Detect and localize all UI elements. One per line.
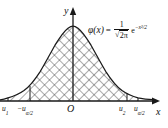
- tick-label-neg-u-alpha-half: −uα/2: [17, 105, 33, 115]
- tick-label-neg-u-alpha-half-subscript: α/2: [26, 110, 33, 116]
- density-formula: φ(x) = 1 √2π e−x²/2: [88, 21, 147, 41]
- x-axis-arrow-icon: [152, 98, 160, 105]
- origin-label: O: [67, 104, 74, 114]
- tick-label-u2: u2: [119, 105, 125, 115]
- formula-numerator: 1: [117, 21, 127, 29]
- tick-label-u-alpha-half-subscript: α/2: [138, 110, 145, 116]
- formula-paren-close: ): [101, 26, 104, 36]
- formula-sqrt-icon: √: [115, 30, 119, 39]
- formula-exponent: −x²/2: [135, 25, 147, 31]
- formula-radicand: 2π: [119, 30, 128, 40]
- formula-fraction: 1 √2π: [114, 21, 129, 41]
- tick-label-u-alpha-half: uα/2: [134, 105, 145, 115]
- formula-denominator: √2π: [114, 30, 129, 40]
- normal-distribution-figure: y x O u1 −uα/2 u2 uα/2 φ(x) = 1 √2π e−x²…: [0, 0, 168, 128]
- y-axis-label: y: [64, 6, 68, 16]
- tick-label-u1: u1: [2, 105, 8, 115]
- y-axis-arrow-icon: [70, 7, 76, 15]
- formula-equals-sign: =: [106, 26, 111, 35]
- x-axis-label: x: [156, 107, 160, 117]
